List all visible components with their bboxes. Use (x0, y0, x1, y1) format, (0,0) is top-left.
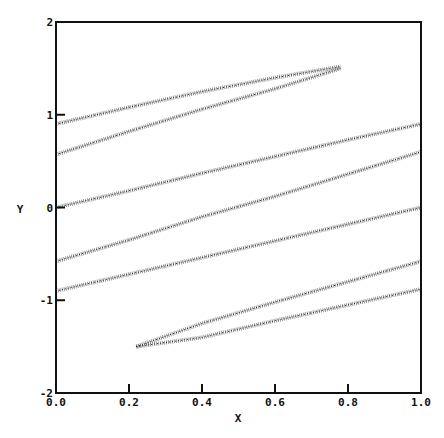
series-band-1 (56, 124, 421, 208)
series-upper-lobe-top (56, 67, 341, 125)
chart-canvas: 0.00.20.40.60.81.0 -2-1012 X Y (0, 0, 444, 438)
series-core-lower-lobe-bottom (136, 289, 421, 347)
series-lower-lobe-top (136, 261, 421, 346)
y-tick-label: -2 (40, 387, 53, 400)
x-axis-label: X (235, 412, 242, 425)
y-tick-labels: -2-1012 (40, 16, 54, 400)
data-bands (56, 67, 421, 347)
y-tick-label: 2 (46, 16, 53, 29)
y-tick-label: 1 (46, 109, 53, 122)
y-tick-label: -1 (40, 294, 54, 307)
x-tick-label: 0.4 (192, 396, 212, 409)
x-tick-label: 0.6 (265, 396, 285, 409)
x-tick-label: 1.0 (411, 396, 431, 409)
x-tick-label: 0.2 (119, 396, 139, 409)
axis-ticks (56, 115, 348, 393)
series-lower-lobe-bottom (136, 289, 421, 347)
y-axis-label: Y (17, 203, 24, 216)
x-tick-label: 0.8 (338, 396, 358, 409)
y-tick-label: 0 (46, 202, 53, 215)
x-tick-labels: 0.00.20.40.60.81.0 (46, 396, 431, 409)
